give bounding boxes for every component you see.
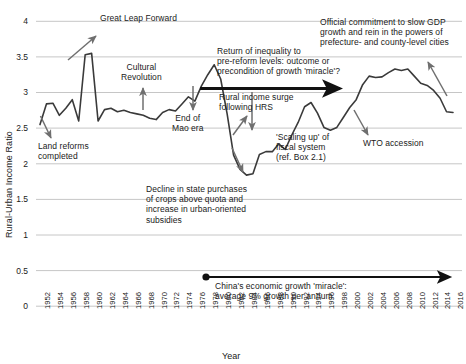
- xtick-2008: 2008: [405, 292, 414, 309]
- xtick-1952: 1952: [43, 292, 52, 309]
- xtick-2012: 2012: [431, 292, 440, 309]
- annotation-end-of-mao-era: End of Mao era: [172, 113, 204, 133]
- annotation-great-leap-forward: Great Leap Forward: [100, 13, 177, 23]
- xtick-1970: 1970: [160, 292, 169, 309]
- ytick-3: 3: [6, 87, 28, 97]
- ytick-3_5: 3.5: [6, 52, 28, 62]
- growth-miracle-arrow: [202, 273, 450, 280]
- arrow-official-commitment: [428, 62, 447, 96]
- xtick-1954: 1954: [56, 292, 65, 309]
- x-axis-label: Year: [222, 351, 240, 361]
- xtick-1976: 1976: [198, 292, 207, 309]
- annotation-return-of-inequality: Return of inequality to pre-reform level…: [217, 46, 340, 77]
- xtick-2000: 2000: [353, 292, 362, 309]
- annotation-decline-state-purchases: Decline in state purchases of crops abov…: [146, 184, 247, 225]
- arrow-land-reforms: [41, 116, 52, 138]
- annotation-rural-income-surge-hrs: Rural income surge following HRS: [219, 92, 294, 112]
- annotation-land-reforms-completed: Land reforms completed: [38, 141, 89, 161]
- xtick-1964: 1964: [121, 292, 130, 309]
- xtick-1958: 1958: [82, 292, 91, 309]
- xtick-2006: 2006: [392, 292, 401, 309]
- annotation-cultural-revolution: Cultural Revolution: [121, 62, 162, 82]
- ytick-0_5: 0.5: [6, 266, 28, 276]
- annotation-official-commitment-slow-gdp: Official commitment to slow GDP growth a…: [320, 17, 449, 48]
- xtick-1962: 1962: [108, 292, 117, 309]
- xtick-2014: 2014: [443, 292, 452, 309]
- ytick-0: 0: [6, 301, 28, 311]
- annotation-wto-accession: WTO accession: [363, 138, 423, 148]
- xtick-1966: 1966: [134, 292, 143, 309]
- xtick-1972: 1972: [172, 292, 181, 309]
- annotation-growth-miracle-span: China's economic growth 'miracle': avera…: [215, 281, 347, 301]
- arrow-decline-state-purchases: [232, 148, 243, 172]
- y-axis-label: Rural-Urban Income Ratio: [4, 131, 14, 238]
- xtick-1968: 1968: [147, 292, 156, 309]
- arrow-rural-income-surge: [233, 116, 247, 135]
- xtick-2016: 2016: [456, 292, 465, 309]
- chart-container: 4 3.5 3 2.5 2 1.5 1 0.5 0 Rural-Urban In…: [0, 0, 466, 364]
- ytick-4: 4: [6, 16, 28, 26]
- annotation-scaling-up-fiscal-system: 'Scaling up' of fiscal system (ref. Box …: [276, 132, 329, 163]
- arrow-wto-accession: [354, 110, 368, 135]
- xtick-2002: 2002: [366, 292, 375, 309]
- xtick-1974: 1974: [185, 292, 194, 309]
- xtick-2004: 2004: [379, 292, 388, 309]
- xtick-2010: 2010: [418, 292, 427, 309]
- xtick-1956: 1956: [69, 292, 78, 309]
- xtick-1960: 1960: [95, 292, 104, 309]
